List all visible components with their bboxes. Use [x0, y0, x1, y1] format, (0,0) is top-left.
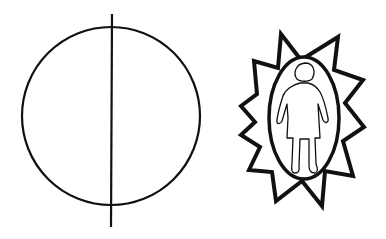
figure-canvas	[0, 0, 386, 239]
sun-person-symbol	[241, 34, 364, 206]
divided-circle-symbol	[22, 14, 200, 227]
symbols-svg	[0, 0, 386, 239]
vertical-divider-line	[111, 14, 112, 227]
person-head	[295, 63, 314, 81]
